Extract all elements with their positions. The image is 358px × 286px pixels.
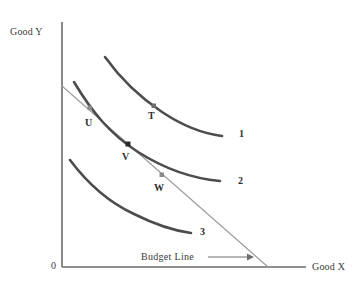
budget-line-annotation: Budget Line — [141, 251, 194, 262]
chart-canvas — [0, 0, 358, 286]
point-label-w: W — [154, 182, 164, 193]
point-label-u: U — [85, 117, 92, 128]
axes-group — [62, 22, 306, 267]
point-label-t: T — [148, 110, 155, 121]
curve-label-2: 2 — [238, 175, 243, 186]
arrow-head-icon — [247, 254, 254, 261]
point-marker-u — [88, 106, 93, 111]
x-axis-label: Good X — [312, 261, 345, 272]
y-axis-label: Good Y — [10, 26, 43, 37]
curve-label-3: 3 — [200, 226, 205, 237]
point-label-v: V — [122, 151, 129, 162]
indifference-curve-1 — [105, 57, 222, 136]
origin-label: 0 — [51, 260, 56, 271]
budget-line-leader-arrow — [208, 254, 254, 261]
point-marker-t — [152, 104, 157, 109]
point-marker-w — [160, 173, 165, 178]
point-marker-v — [126, 142, 131, 147]
curve-label-1: 1 — [239, 128, 244, 139]
indifference-curve-figure: Good Y Good X 0 U T V W 1 2 3 Budget Lin… — [0, 0, 358, 286]
